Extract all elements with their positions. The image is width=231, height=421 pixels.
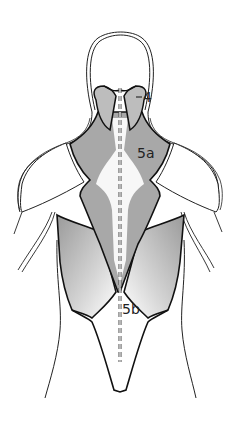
label-5a: 5a [137,146,155,160]
back-anatomy-diagram [0,0,231,421]
label-4: 4 [143,90,152,104]
label-5b: 5b [122,302,140,316]
